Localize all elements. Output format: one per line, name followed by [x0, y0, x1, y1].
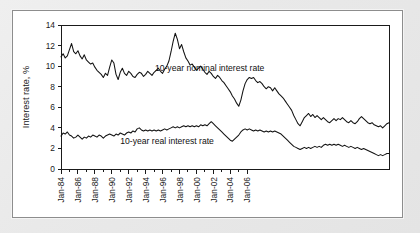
- x-tick-label-1988: Jan-88: [90, 177, 100, 203]
- x-tick-label-1992: Jan-92: [124, 177, 134, 203]
- x-tick-label-1998: Jan-98: [175, 177, 185, 203]
- y-axis-label: Interest rate, %: [21, 66, 31, 128]
- x-tick-label-2002: Jan-02: [209, 177, 219, 203]
- chart-area: 02468101214 Jan-84Jan-86Jan-88Jan-90Jan-…: [13, 11, 404, 219]
- y-tick-label-6: 6: [50, 102, 55, 112]
- x-tick-label-1994: Jan-94: [141, 177, 151, 203]
- y-tick-label-2: 2: [50, 143, 55, 153]
- x-tick-label-1984: Jan-84: [56, 177, 66, 203]
- plot-box-border: [61, 25, 389, 169]
- y-tick-label-4: 4: [50, 123, 55, 133]
- interest-rate-line-chart: 02468101214 Jan-84Jan-86Jan-88Jan-90Jan-…: [13, 11, 404, 219]
- figure-root: 02468101214 Jan-84Jan-86Jan-88Jan-90Jan-…: [0, 0, 420, 233]
- y-tick-label-12: 12: [46, 41, 56, 51]
- annotation-nominal: 10-year nominal interest rate: [155, 63, 265, 73]
- y-axis: 02468101214: [46, 20, 61, 174]
- y-axis-title: Interest rate, %: [21, 66, 31, 128]
- series-line-real: [61, 122, 389, 156]
- x-tick-label-2000: Jan-00: [192, 177, 202, 203]
- x-tick-label-1986: Jan-86: [73, 177, 83, 203]
- y-tick-label-14: 14: [46, 20, 56, 30]
- y-tick-label-0: 0: [50, 164, 55, 174]
- chart-panel: 02468101214 Jan-84Jan-86Jan-88Jan-90Jan-…: [12, 10, 403, 218]
- x-tick-label-1990: Jan-90: [107, 177, 117, 203]
- series-lines: [61, 33, 389, 155]
- annotation-real: 10-year real interest rate: [120, 136, 214, 146]
- x-tick-label-2006: Jan-06: [242, 177, 252, 203]
- series-annotations: 10-year nominal interest rate10-year rea…: [120, 63, 264, 146]
- y-tick-label-8: 8: [50, 82, 55, 92]
- x-tick-label-2004: Jan-04: [225, 177, 235, 203]
- y-tick-label-10: 10: [46, 61, 56, 71]
- x-tick-label-1996: Jan-96: [158, 177, 168, 203]
- x-axis: Jan-84Jan-86Jan-88Jan-90Jan-92Jan-94Jan-…: [56, 169, 252, 203]
- series-line-nominal: [61, 33, 389, 128]
- plot-frame: [61, 25, 389, 169]
